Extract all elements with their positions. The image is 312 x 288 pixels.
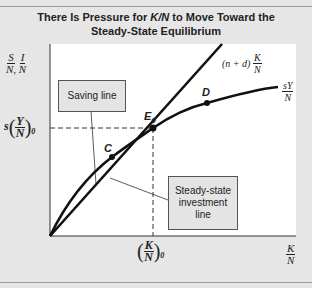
point-d-marker: [204, 100, 210, 106]
x-label-n: N: [287, 255, 294, 266]
y-tick-sub: 0: [31, 127, 35, 136]
x-tick-sub: 0: [160, 251, 164, 260]
investment-callout-line1: Steady-state: [175, 185, 231, 197]
investment-line-label: (n + d) KN: [222, 52, 262, 75]
saving-line-callout-text: Saving line: [68, 90, 117, 102]
investment-callout-line2: investment: [179, 197, 227, 209]
investment-prefix: (n + d): [222, 58, 250, 69]
y-axis-label: SN, IN: [6, 52, 26, 75]
y-label-n1: N,: [6, 64, 16, 75]
point-e0-label: E0: [144, 110, 156, 125]
investment-callout-line3: line: [195, 209, 211, 221]
investment-n: N: [254, 64, 261, 75]
investment-k: K: [253, 52, 262, 64]
point-c-marker: [109, 154, 115, 160]
y-tick-n: N: [16, 128, 25, 139]
e0-sub: 0: [151, 116, 155, 125]
saving-n: N: [284, 92, 291, 103]
x-axis-label: KN: [286, 243, 295, 266]
investment-line-callout: Steady-state investment line: [168, 176, 238, 230]
x-tick-n: N: [144, 252, 153, 263]
saving-line-callout: Saving line: [58, 80, 126, 112]
x-tick-label: (KN)0: [137, 240, 164, 263]
point-c-label: C: [104, 142, 112, 154]
point-e0-marker: [150, 125, 157, 132]
saving-sy: sY: [282, 80, 293, 92]
y-label-n2: N: [19, 64, 26, 75]
y-tick-label: s(YN)0: [4, 116, 35, 139]
point-d-label: D: [202, 86, 210, 98]
investment-callout-leader: [110, 178, 168, 200]
saving-curve-label: sYN: [282, 80, 293, 103]
